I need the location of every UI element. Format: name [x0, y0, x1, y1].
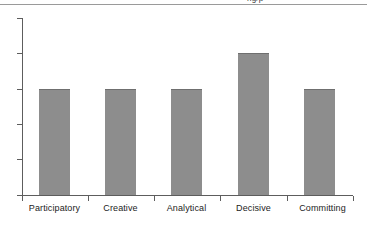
x-axis-tick-4	[287, 196, 288, 201]
y-axis-tick-2	[17, 124, 23, 125]
x-axis-label-committing: Committing	[288, 203, 357, 214]
x-axis-tick-1	[88, 196, 89, 201]
bar-analytical	[171, 89, 202, 195]
figure-container: ng/p Participatory Creative Analytical D…	[0, 0, 367, 229]
x-axis-label-decisive: Decisive	[224, 203, 283, 214]
x-axis-label-participatory: Participatory	[17, 203, 92, 214]
x-axis-line	[22, 195, 353, 196]
y-axis-tick-1	[17, 159, 23, 160]
bar-creative	[105, 89, 136, 195]
bar-decisive	[238, 53, 269, 195]
x-axis-tick-2	[154, 196, 155, 201]
bar-chart-plot-area: Participatory Creative Analytical Decisi…	[0, 0, 367, 229]
bar-committing	[304, 89, 335, 195]
y-axis-tick-5	[17, 18, 23, 19]
y-axis-tick-3	[17, 89, 23, 90]
y-axis-tick-4	[17, 53, 23, 54]
x-axis-tick-0	[22, 196, 23, 201]
x-axis-label-analytical: Analytical	[154, 203, 219, 214]
x-axis-label-creative: Creative	[90, 203, 151, 214]
x-axis-tick-3	[220, 196, 221, 201]
bar-participatory	[39, 89, 70, 195]
x-axis-tick-5	[353, 196, 354, 201]
y-axis-line	[22, 18, 23, 196]
